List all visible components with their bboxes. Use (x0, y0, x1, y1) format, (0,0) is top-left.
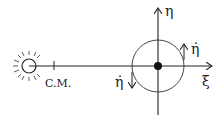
diagram-canvas: η ξ η̇ η̇ C.M. (0, 0, 224, 121)
eta-dot-right-label: η̇ (191, 41, 199, 57)
rotating-frame-diagram: η ξ η̇ η̇ C.M. (0, 0, 224, 121)
eta-axis-label: η (165, 3, 173, 19)
xi-axis-label: ξ (202, 73, 210, 89)
cm-label: C.M. (45, 77, 71, 90)
planet-dot (154, 62, 162, 70)
eta-dot-left-label: η̇ (115, 74, 123, 90)
